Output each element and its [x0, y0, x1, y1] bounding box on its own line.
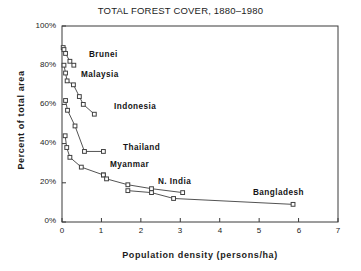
series-thailand: [63, 134, 105, 177]
series-layer: [61, 46, 295, 207]
data-point-marker: [150, 187, 154, 191]
data-point-marker: [291, 202, 295, 206]
data-point-marker: [68, 155, 72, 159]
data-point-marker: [64, 71, 68, 75]
axis-ticks: [62, 26, 338, 222]
data-point-marker: [102, 173, 106, 177]
data-point-marker: [72, 63, 76, 67]
data-point-marker: [62, 48, 66, 52]
data-point-marker: [64, 52, 68, 56]
series-myanmar: [102, 173, 185, 194]
data-point-marker: [150, 191, 154, 195]
axis-frame: [62, 26, 338, 222]
data-point-marker: [181, 191, 185, 195]
data-point-marker: [62, 63, 66, 67]
data-point-marker: [79, 165, 83, 169]
data-point-marker: [105, 177, 109, 181]
data-point-marker: [83, 150, 87, 154]
data-point-marker: [63, 134, 67, 138]
data-point-marker: [172, 197, 176, 201]
forest-cover-chart-figure: TOTAL FOREST COVER, 1880–1980 Percent of…: [0, 0, 361, 271]
data-point-marker: [68, 59, 72, 63]
data-point-marker: [72, 83, 76, 87]
data-point-marker: [126, 183, 130, 187]
data-point-marker: [73, 124, 77, 128]
series-n-india: [126, 189, 295, 207]
data-point-marker: [64, 99, 68, 103]
data-point-marker: [81, 103, 85, 107]
data-point-marker: [65, 146, 69, 150]
data-point-marker: [92, 112, 96, 116]
data-point-marker: [77, 95, 81, 99]
data-point-marker: [126, 189, 130, 193]
plot-canvas: [0, 0, 361, 271]
data-point-marker: [102, 150, 106, 154]
data-point-marker: [65, 79, 69, 83]
data-point-marker: [66, 108, 70, 112]
